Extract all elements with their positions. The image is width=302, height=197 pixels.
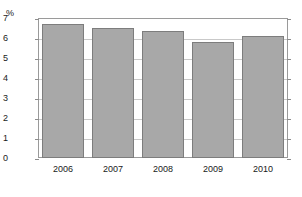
y-axis-tick-label: 6: [0, 34, 8, 43]
bar-series: [38, 18, 288, 158]
y-axis-tick-label: 2: [0, 114, 8, 123]
y-axis-tick-label: 4: [0, 74, 8, 83]
y-axis-tick-label: 3: [0, 94, 8, 103]
bar: [142, 31, 184, 158]
x-axis-tick-label: 2010: [238, 165, 288, 174]
y-axis-tick-label: 1: [0, 134, 8, 143]
bar: [242, 36, 284, 158]
bar: [42, 24, 84, 158]
y-axis-tick-label: 0: [0, 154, 8, 163]
x-axis-tick-label: 2009: [188, 165, 238, 174]
bar: [92, 28, 134, 158]
bar: [192, 42, 234, 158]
x-axis-tick-label: 2007: [88, 165, 138, 174]
x-axis-tick-label: 2006: [38, 165, 88, 174]
x-axis-tick-label: 2008: [138, 165, 188, 174]
bar-chart: % 01234567 20062007200820092010: [0, 0, 302, 197]
y-axis-tick: [35, 159, 39, 160]
y-axis-tick: [287, 159, 291, 160]
y-axis-tick-label: 7: [0, 14, 8, 23]
y-axis-tick-label: 5: [0, 54, 8, 63]
